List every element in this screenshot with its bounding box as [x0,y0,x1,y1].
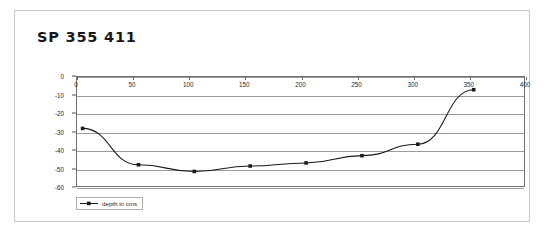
plot-area [76,76,525,187]
x-axis-tick-label: 150 [239,81,250,88]
x-axis-tick-label: 400 [520,81,531,88]
data-point-marker [472,88,476,92]
x-axis-tick-label: 250 [351,81,362,88]
chart-legend: depth in cms [76,197,143,210]
y-axis-tick-label: -20 [48,110,64,117]
y-axis-tick-label: -10 [48,91,64,98]
y-axis-tick-label: -30 [48,128,64,135]
x-axis-tick-label: 300 [407,81,418,88]
series-line [83,90,474,172]
x-axis-tick-label: 100 [183,81,194,88]
legend-line-marker-icon [80,200,98,207]
y-axis-tick-label: -40 [48,147,64,154]
x-axis-tick-mark [526,77,527,80]
chart-container: 0-10-20-30-40-50-60 05010015020025030035… [62,66,526,188]
document-frame: SP 355 411 0-10-20-30-40-50-60 050100150… [14,10,530,222]
data-point-marker [137,163,141,167]
page-title: SP 355 411 [37,29,137,45]
x-axis-tick-label: 200 [295,81,306,88]
data-point-marker [248,164,252,168]
data-point-marker [193,170,197,174]
data-point-marker [416,142,420,146]
screenshot-page: SP 355 411 0-10-20-30-40-50-60 050100150… [0,0,545,239]
x-axis-tick-label: 0 [74,81,78,88]
data-series-depth-in-cms [77,77,524,186]
data-point-marker [81,127,85,131]
data-point-marker [360,154,364,158]
legend-label-depth: depth in cms [102,200,137,207]
x-axis-tick-label: 350 [464,81,475,88]
gridline [77,188,524,189]
x-axis-tick-label: 50 [129,81,136,88]
y-axis-tick-label: -60 [48,184,64,191]
data-point-marker [304,161,308,165]
y-axis-tick-label: -50 [48,165,64,172]
y-axis-tick-label: 0 [48,73,64,80]
